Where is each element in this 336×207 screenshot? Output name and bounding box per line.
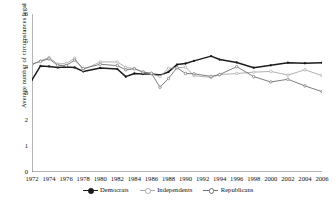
x-tick-label: 1980 (94, 175, 107, 182)
legend-label: Democrats (100, 186, 129, 193)
legend-item-independents: Independents (140, 186, 193, 193)
legend-item-republicans: Republicans (203, 186, 253, 193)
chart-legend: DemocratsIndependentsRepublicans (0, 186, 336, 193)
x-tick-label: 1988 (162, 175, 175, 182)
legend-label: Republicans (221, 186, 254, 193)
x-tick-label: 1990 (179, 175, 192, 182)
x-tick-label: 1986 (145, 175, 158, 182)
x-tick-label: 1976 (60, 175, 73, 182)
x-tick-label: 2004 (298, 175, 311, 182)
legend-label: Independents (157, 186, 192, 193)
x-tick-label: 1974 (42, 175, 55, 182)
x-tick-label: 1978 (77, 175, 90, 182)
x-tick-label: 1984 (128, 175, 141, 182)
x-tick-label: 2006 (315, 175, 328, 182)
chart-container: Average number of circumstances legal 01… (0, 0, 336, 207)
x-tick-label: 1972 (25, 175, 38, 182)
x-tick-label: 1996 (230, 175, 243, 182)
x-axis-tick-labels: 1972197419761978198019821984198619881990… (0, 0, 336, 207)
x-tick-label: 1982 (111, 175, 124, 182)
x-tick-label: 1998 (247, 175, 260, 182)
legend-item-democrats: Democrats (83, 186, 129, 193)
x-tick-label: 2002 (281, 175, 294, 182)
x-tick-label: 1994 (213, 175, 226, 182)
x-tick-label: 1992 (196, 175, 209, 182)
x-tick-label: 2000 (264, 175, 277, 182)
